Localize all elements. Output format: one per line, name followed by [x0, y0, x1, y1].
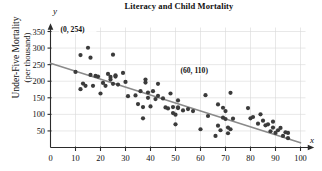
x-tick-label: 40: [146, 154, 154, 163]
scatter-plot-figure: Literacy and Child Mortality Under-Five …: [0, 0, 322, 171]
annotation-label: (60, 110): [181, 66, 209, 75]
y-tick-label: 350: [32, 28, 45, 37]
x-tick-label: 10: [71, 154, 79, 163]
data-point: [111, 53, 115, 57]
data-point: [228, 127, 232, 131]
data-point: [171, 105, 175, 109]
x-tick-label: 90: [271, 154, 279, 163]
data-point: [151, 89, 155, 93]
data-point: [251, 115, 255, 119]
x-tick-label: 100: [294, 154, 307, 163]
data-point: [213, 134, 217, 138]
data-point: [161, 96, 165, 100]
data-point: [186, 107, 190, 111]
data-point: [181, 108, 185, 112]
data-point: [108, 75, 112, 79]
x-tick-label: 80: [246, 154, 254, 163]
data-point: [123, 80, 127, 84]
data-point: [103, 84, 107, 88]
data-point: [121, 71, 125, 75]
data-point: [286, 131, 290, 135]
data-point: [156, 82, 160, 86]
data-point: [156, 94, 160, 98]
data-point: [216, 124, 220, 128]
data-point: [133, 93, 137, 97]
annotation-label: (0, 254): [61, 25, 86, 34]
data-point: [91, 84, 95, 88]
data-point: [268, 129, 272, 133]
y-tick-label: 100: [32, 110, 45, 119]
data-point: [216, 102, 220, 106]
y-tick-label: 300: [32, 44, 45, 53]
data-point: [231, 117, 235, 121]
data-point: [96, 74, 100, 78]
data-point: [88, 56, 92, 60]
data-point: [73, 70, 77, 74]
data-point: [218, 128, 222, 132]
data-point: [206, 114, 210, 118]
data-point: [223, 117, 227, 121]
data-point: [168, 91, 172, 95]
data-point: [146, 96, 150, 100]
data-point: [116, 82, 120, 86]
y-tick-label: 200: [32, 77, 45, 86]
plot-canvas: 5010015020025030035001020304050607080901…: [0, 0, 322, 171]
data-point: [258, 112, 262, 116]
data-point: [221, 106, 225, 110]
data-point: [191, 109, 195, 113]
y-tick-label: 50: [37, 127, 45, 136]
data-point: [113, 73, 117, 77]
data-point: [286, 136, 290, 140]
x-tick-label: 70: [221, 154, 229, 163]
data-point: [146, 90, 150, 94]
data-point: [261, 119, 265, 123]
x-tick-label: 0: [48, 154, 52, 163]
y-tick-label: 250: [32, 61, 45, 70]
x-tick-label: 60: [196, 154, 204, 163]
data-point: [136, 102, 140, 106]
gridlines: [51, 28, 306, 148]
data-point: [198, 127, 202, 131]
x-tick-label: 30: [121, 154, 129, 163]
data-point: [176, 105, 180, 109]
data-point: [143, 80, 147, 84]
data-point: [176, 98, 180, 102]
data-point: [166, 106, 170, 110]
data-point: [173, 122, 177, 126]
annotations: (0, 254)(60, 110): [59, 25, 221, 76]
y-axis-arrowhead: [48, 23, 54, 30]
data-point: [228, 91, 232, 95]
data-point: [226, 131, 230, 135]
data-point: [203, 93, 207, 97]
data-point: [223, 109, 227, 113]
data-point: [86, 46, 90, 50]
data-point: [126, 94, 130, 98]
data-point: [266, 122, 270, 126]
data-point: [78, 87, 82, 91]
data-point: [141, 116, 145, 120]
y-tick-label: 150: [32, 94, 45, 103]
data-point: [83, 84, 87, 88]
x-axis-arrowhead: [308, 145, 315, 151]
data-point: [141, 105, 145, 109]
data-point: [148, 104, 152, 108]
data-point: [271, 120, 275, 124]
data-point: [281, 134, 285, 138]
data-point: [88, 73, 92, 77]
data-point: [138, 89, 142, 93]
data-points: [73, 46, 290, 141]
data-point: [278, 126, 282, 130]
tick-marks: [48, 32, 301, 151]
data-point: [78, 53, 82, 57]
data-point: [98, 91, 102, 95]
x-tick-label: 50: [171, 154, 179, 163]
data-point: [246, 106, 250, 110]
data-point: [271, 126, 275, 130]
data-point: [173, 113, 177, 117]
data-point: [256, 122, 260, 126]
data-point: [111, 82, 115, 86]
data-point: [153, 97, 157, 101]
x-tick-label: 20: [96, 154, 104, 163]
